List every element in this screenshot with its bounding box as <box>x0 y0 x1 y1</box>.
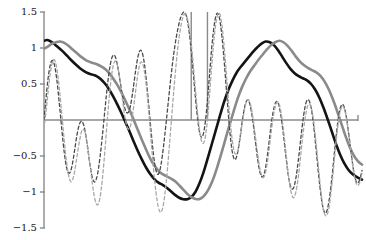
y-tick-label-4: −1 <box>22 187 37 197</box>
zero-reference-line-group <box>44 115 358 121</box>
series-dashed-light-oscillation <box>44 13 362 216</box>
y-tick-label-1: 1 <box>31 43 37 53</box>
y-tick-label-3: −0.5 <box>13 151 37 161</box>
chart-plot-area <box>0 0 366 240</box>
chart-figure: 1.510.5−0.5−1−1.5 <box>0 0 366 240</box>
y-tick-label-0: 1.5 <box>21 7 37 17</box>
series-group <box>44 12 362 216</box>
y-tick-label-5: −1.5 <box>13 223 37 233</box>
y-tick-label-2: 0.5 <box>21 79 37 89</box>
